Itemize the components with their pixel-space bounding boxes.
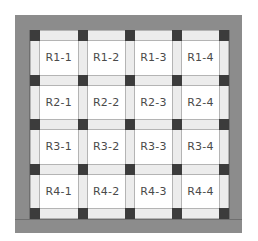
sashing-vertical <box>219 130 229 164</box>
border-seam-right <box>229 30 230 219</box>
border-seam-bottom <box>15 219 242 220</box>
corner-post <box>30 208 40 219</box>
corner-post <box>125 119 135 130</box>
sashing-vertical <box>78 175 88 209</box>
sashing-vertical <box>125 86 135 120</box>
sashing-horizontal <box>182 119 219 130</box>
sashing-horizontal <box>135 75 172 86</box>
sashing-horizontal <box>40 75 78 86</box>
sashing-vertical <box>125 130 135 164</box>
corner-post <box>219 119 229 130</box>
sashing-horizontal <box>88 119 126 130</box>
block-cell: R4-4 <box>182 175 219 209</box>
sashing-horizontal <box>40 30 78 41</box>
sashing-horizontal <box>88 30 126 41</box>
block-cell: R4-1 <box>40 175 78 209</box>
sashing-horizontal <box>135 30 172 41</box>
sashing-vertical <box>30 130 40 164</box>
sashing-horizontal <box>88 164 126 175</box>
corner-post <box>172 30 182 41</box>
corner-post <box>78 30 88 41</box>
sashing-vertical <box>172 175 182 209</box>
block-cell: R2-2 <box>88 86 126 120</box>
corner-post <box>78 164 88 175</box>
sashing-horizontal <box>135 164 172 175</box>
sashing-vertical <box>30 41 40 75</box>
sashing-vertical <box>172 130 182 164</box>
corner-post <box>219 208 229 219</box>
sashing-horizontal <box>40 164 78 175</box>
sashing-vertical <box>219 41 229 75</box>
sashing-vertical <box>30 175 40 209</box>
block-cell: R3-2 <box>88 130 126 164</box>
sashing-horizontal <box>88 75 126 86</box>
sashing-horizontal <box>40 119 78 130</box>
block-cell: R3-3 <box>135 130 172 164</box>
corner-post <box>172 75 182 86</box>
corner-post <box>125 75 135 86</box>
corner-post <box>30 164 40 175</box>
corner-post <box>219 75 229 86</box>
sashing-vertical <box>125 41 135 75</box>
sashing-horizontal <box>40 208 78 219</box>
sashing-vertical <box>30 86 40 120</box>
block-cell: R2-1 <box>40 86 78 120</box>
sashing-horizontal <box>182 30 219 41</box>
sashing-horizontal <box>135 208 172 219</box>
sashing-horizontal <box>182 75 219 86</box>
sashing-vertical <box>125 175 135 209</box>
block-cell: R1-1 <box>40 41 78 75</box>
block-cell: R3-1 <box>40 130 78 164</box>
corner-post <box>219 164 229 175</box>
sashing-vertical <box>172 86 182 120</box>
corner-post <box>219 30 229 41</box>
sashing-horizontal <box>135 119 172 130</box>
sashing-vertical <box>78 86 88 120</box>
sashing-vertical <box>78 41 88 75</box>
sashing-horizontal <box>88 208 126 219</box>
sashing-vertical <box>172 41 182 75</box>
corner-post <box>78 208 88 219</box>
block-cell: R3-4 <box>182 130 219 164</box>
corner-post <box>30 119 40 130</box>
block-cell: R1-2 <box>88 41 126 75</box>
sashing-horizontal <box>182 164 219 175</box>
corner-post <box>78 75 88 86</box>
corner-post <box>172 164 182 175</box>
block-cell: R2-4 <box>182 86 219 120</box>
corner-post <box>78 119 88 130</box>
block-cell: R1-3 <box>135 41 172 75</box>
corner-post <box>172 208 182 219</box>
corner-post <box>30 30 40 41</box>
sashing-vertical <box>78 130 88 164</box>
sashing-vertical <box>219 175 229 209</box>
sashing-vertical <box>219 86 229 120</box>
corner-post <box>30 75 40 86</box>
block-cell: R4-3 <box>135 175 172 209</box>
block-cell: R1-4 <box>182 41 219 75</box>
corner-post <box>125 208 135 219</box>
corner-post <box>125 164 135 175</box>
corner-post <box>172 119 182 130</box>
corner-post <box>125 30 135 41</box>
quilt-grid: R1-1R1-2R1-3R1-4R2-1R2-2R2-3R2-4R3-1R3-2… <box>30 30 229 219</box>
block-cell: R4-2 <box>88 175 126 209</box>
sashing-horizontal <box>182 208 219 219</box>
block-cell: R2-3 <box>135 86 172 120</box>
